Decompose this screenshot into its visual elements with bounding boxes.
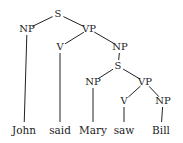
node-np-bill: NP xyxy=(155,96,170,106)
node-s-top: S xyxy=(55,9,62,19)
leaf-john: John xyxy=(12,125,36,136)
tree-edge xyxy=(162,107,163,122)
node-np-john: NP xyxy=(19,24,34,34)
tree-edge xyxy=(24,35,27,122)
node-v-saw: V xyxy=(120,96,127,106)
tree-edge xyxy=(128,86,140,97)
tree-edge xyxy=(63,17,83,27)
node-s-embedded: S xyxy=(115,61,122,71)
syntax-tree-diagram: S NP VP V NP S NP VP V NP John said Mary… xyxy=(0,0,183,143)
node-v-said: V xyxy=(56,42,63,52)
node-vp-embedded: VP xyxy=(138,77,152,87)
node-np-mary: NP xyxy=(85,77,100,87)
node-vp-top: VP xyxy=(82,24,96,34)
node-np-object: NP xyxy=(112,42,127,52)
leaf-said: said xyxy=(49,125,71,136)
leaf-saw: saw xyxy=(114,125,135,136)
leaf-mary: Mary xyxy=(79,125,107,136)
tree-edge xyxy=(32,17,52,27)
leaf-bill: Bill xyxy=(152,125,170,136)
tree-edges xyxy=(0,0,183,143)
tree-edge xyxy=(119,53,120,60)
